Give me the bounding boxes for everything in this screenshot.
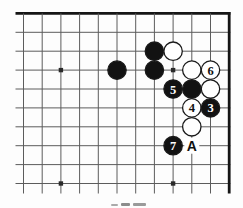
stone-black (183, 80, 201, 98)
star-point (171, 181, 175, 185)
stone-white (183, 118, 201, 136)
stone-white (201, 80, 219, 98)
point-marker-A: A (187, 138, 197, 154)
caption-fragment (111, 202, 147, 208)
star-point (59, 181, 63, 185)
caption-stroke (121, 203, 130, 206)
stone-number-6: 6 (207, 64, 213, 78)
stone-black (108, 61, 126, 79)
caption-stroke (133, 203, 146, 206)
stone-number-3: 3 (207, 101, 213, 115)
star-point (59, 68, 63, 72)
star-point (171, 68, 175, 72)
caption-stroke (111, 204, 118, 206)
stone-number-5: 5 (170, 83, 176, 97)
stone-black (145, 61, 163, 79)
stone-white (183, 61, 201, 79)
go-board: 65437A (0, 0, 243, 208)
stone-white (164, 42, 182, 60)
stone-number-4: 4 (189, 101, 196, 115)
stone-black (145, 42, 163, 60)
go-diagram-page: 65437A (0, 0, 243, 208)
stone-number-7: 7 (170, 139, 176, 153)
